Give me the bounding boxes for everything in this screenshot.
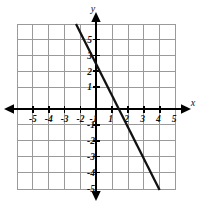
- graph-canvas: -5 -4 -3 -2 -1 1 2 3 4 5 1 2 3 5 -1 -2 -…: [0, 0, 199, 206]
- y-tick-label-neg1: -1: [87, 120, 95, 130]
- x-tick-label-2: 2: [123, 114, 129, 124]
- y-tick-label-2: 2: [86, 67, 92, 77]
- x-axis-name-label: x: [190, 97, 196, 108]
- x-tick-label-neg3: -3: [61, 114, 69, 124]
- x-tick-label-neg5: -5: [29, 114, 37, 124]
- x-axis-tick-labels: -5 -4 -3 -2 -1 1 2 3 4 5: [29, 114, 177, 124]
- x-axis: [4, 104, 191, 114]
- y-tick-label-neg2: -2: [87, 136, 95, 146]
- x-tick-label-neg4: -4: [45, 114, 53, 124]
- x-axis-left-arrow-icon: [4, 104, 14, 114]
- x-tick-label-1: 1: [108, 114, 113, 124]
- coordinate-plane-figure: -5 -4 -3 -2 -1 1 2 3 4 5 1 2 3 5 -1 -2 -…: [0, 0, 199, 206]
- y-tick-label-neg5: -5: [87, 184, 95, 194]
- y-tick-label-3: 3: [86, 51, 92, 61]
- x-axis-right-arrow-icon: [181, 104, 191, 114]
- x-tick-label-3: 3: [139, 114, 145, 124]
- y-tick-label-1: 1: [87, 82, 92, 92]
- line-segment: [76, 24, 160, 190]
- x-tick-label-5: 5: [172, 114, 177, 124]
- y-axis-positive-tick-labels: 1 2 3 5: [86, 35, 92, 93]
- y-tick-label-5: 5: [87, 35, 92, 45]
- y-axis-name-label: y: [90, 3, 96, 14]
- y-axis-negative-tick-labels: -1 -2 -3 -4 -5: [87, 120, 95, 194]
- y-tick-label-neg3: -3: [87, 152, 95, 162]
- y-tick-label-neg4: -4: [87, 168, 95, 178]
- x-tick-label-neg2: -2: [77, 114, 85, 124]
- x-tick-label-4: 4: [155, 114, 161, 124]
- plotted-line-series: [76, 24, 160, 190]
